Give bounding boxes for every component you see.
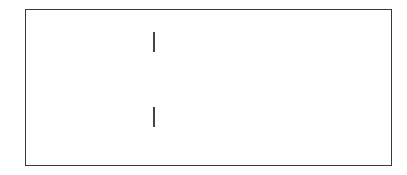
onset-shift-arrows <box>0 0 407 175</box>
